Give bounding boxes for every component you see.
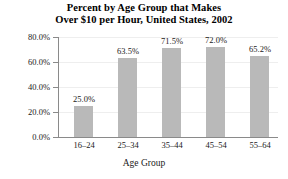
- bar-35-44: [162, 48, 181, 137]
- chart-title-line-1: Percent by Age Group that Makes: [0, 2, 288, 14]
- x-axis-line: [58, 137, 278, 138]
- bar-chart: Percent by Age Group that Makes Over $10…: [0, 0, 288, 179]
- xtick-label-35-44: 35–44: [150, 140, 194, 150]
- xtick-label-16-24: 16–24: [62, 140, 106, 150]
- bar-55-64: [250, 56, 269, 138]
- ytick-label-0: 0.0%: [0, 133, 50, 142]
- y-axis-line: [58, 37, 59, 138]
- bar-group-35-44: [150, 37, 194, 137]
- ytick-label-20: 20.0%: [0, 108, 50, 117]
- data-label-16-24: 25.0%: [62, 95, 106, 104]
- chart-title-line-2: Over $10 per Hour, United States, 2002: [0, 14, 288, 26]
- data-label-35-44: 71.5%: [150, 37, 194, 46]
- xtick-label-25-34: 25–34: [106, 140, 150, 150]
- chart-title: Percent by Age Group that Makes Over $10…: [0, 2, 288, 25]
- bar-group-45-54: [194, 37, 238, 137]
- data-label-45-54: 72.0%: [194, 36, 238, 45]
- bar-25-34: [118, 58, 137, 137]
- data-label-55-64: 65.2%: [238, 45, 282, 54]
- ytick-label-80: 80.0%: [0, 33, 50, 42]
- xtick-label-55-64: 55–64: [238, 140, 282, 150]
- bar-45-54: [206, 47, 225, 137]
- x-axis-title: Age Group: [0, 158, 288, 168]
- xtick-label-45-54: 45–54: [194, 140, 238, 150]
- bar-16-24: [74, 106, 93, 137]
- bar-group-16-24: [62, 37, 106, 137]
- data-label-25-34: 63.5%: [106, 47, 150, 56]
- ytick-label-40: 40.0%: [0, 83, 50, 92]
- ytick-label-60: 60.0%: [0, 58, 50, 67]
